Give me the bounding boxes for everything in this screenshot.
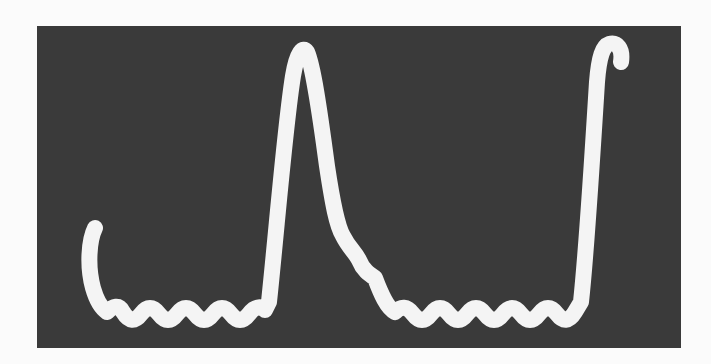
oscilloscope-screen: [37, 26, 681, 348]
waveform-trace: [37, 26, 681, 348]
